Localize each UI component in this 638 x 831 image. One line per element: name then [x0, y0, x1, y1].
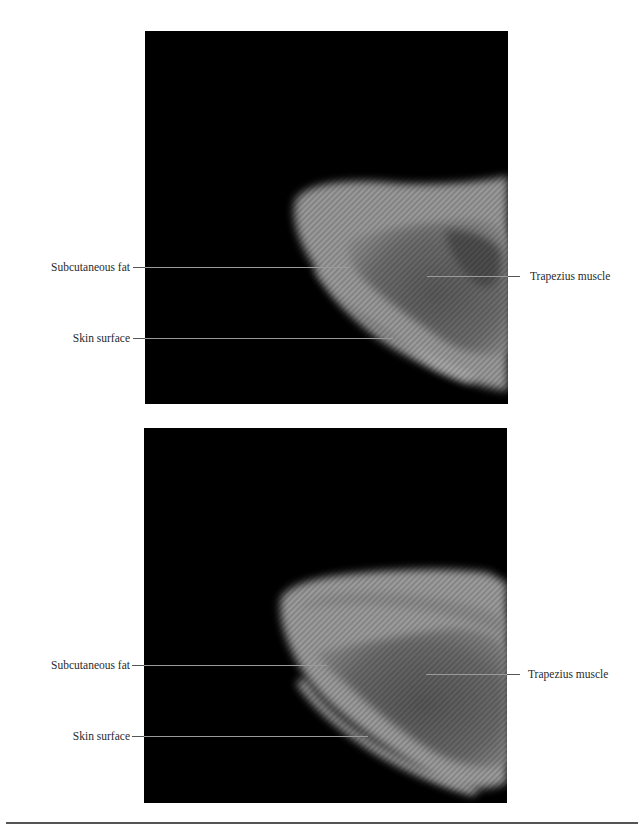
label-skin-surface-top: Skin surface [73, 331, 130, 345]
leader-line-subcutaneous-fat-top-inner [145, 267, 350, 268]
leader-line-subcutaneous-fat-bottom-inner [144, 665, 327, 666]
label-trapezius-muscle-top: Trapezius muscle [530, 269, 610, 283]
mri-image-bottom [144, 428, 507, 803]
leader-line-trapezius-top [508, 276, 520, 277]
leader-line-skin-surface-bottom-inner [144, 736, 368, 737]
leader-line-skin-surface-bottom [132, 736, 144, 737]
leader-line-trapezius-top-inner [427, 276, 508, 277]
leader-line-trapezius-bottom [507, 674, 520, 675]
mri-scan-bottom [144, 428, 507, 803]
label-skin-surface-bottom: Skin surface [73, 729, 130, 743]
mri-scan-top [145, 31, 508, 404]
label-trapezius-muscle-bottom: Trapezius muscle [528, 667, 608, 681]
footer-rule [6, 822, 638, 824]
label-subcutaneous-fat-top: Subcutaneous fat [51, 260, 130, 274]
leader-line-subcutaneous-fat-bottom [132, 665, 144, 666]
label-subcutaneous-fat-bottom: Subcutaneous fat [51, 658, 130, 672]
leader-line-skin-surface-top-inner [145, 338, 393, 339]
leader-line-skin-surface-top [133, 338, 145, 339]
leader-line-trapezius-bottom-inner [426, 674, 507, 675]
leader-line-subcutaneous-fat-top [133, 267, 145, 268]
mri-image-top [145, 31, 508, 404]
